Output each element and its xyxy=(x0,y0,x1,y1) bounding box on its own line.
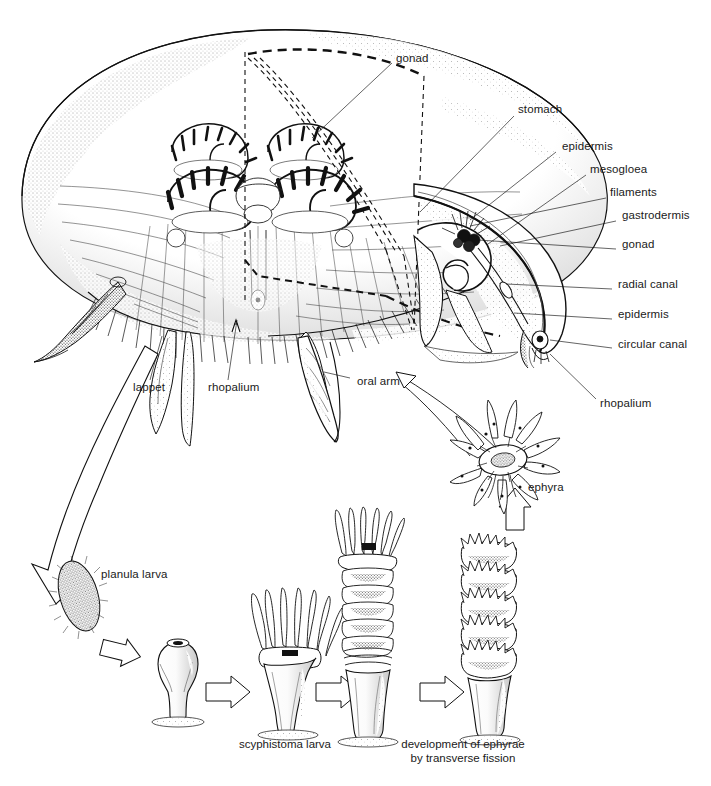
stage-young-polyp xyxy=(152,639,204,727)
label-epidermis-lower: epidermis xyxy=(618,308,669,320)
label-gonad-side: gonad xyxy=(622,238,654,250)
label-radial-canal: radial canal xyxy=(618,278,678,290)
stage-ephyra xyxy=(450,400,560,514)
strobila-segments xyxy=(342,568,393,657)
caption-scyphistoma-larva: scyphistoma larva xyxy=(220,737,350,751)
block-arrow-icon xyxy=(98,634,144,671)
stage-strobila-late xyxy=(460,533,520,745)
label-epidermis-top: epidermis xyxy=(562,140,613,152)
block-arrow-icon xyxy=(206,676,250,708)
label-planula-larva: planula larva xyxy=(101,568,168,580)
label-circular-canal: circular canal xyxy=(618,338,687,350)
figure-canvas: gonad stomach epidermis mesogloea filame… xyxy=(0,0,711,786)
curved-leader-arrow-icon xyxy=(396,372,500,456)
label-mesogloea: mesogloea xyxy=(590,163,647,175)
stage-scyphistoma xyxy=(251,588,342,740)
label-ephyra: ephyra xyxy=(528,481,564,493)
label-rhopalium-section: rhopalium xyxy=(600,397,651,409)
label-filaments: filaments xyxy=(610,186,657,198)
scyphistoma-tentacles xyxy=(251,588,342,656)
label-lappet: lappet xyxy=(133,381,165,393)
caption-ephyrae-development: development of ephyrae by transverse fis… xyxy=(378,737,548,765)
stage-strobila-early xyxy=(335,507,404,747)
diagram-artwork xyxy=(0,0,711,786)
label-gastrodermis: gastrodermis xyxy=(622,209,690,221)
label-stomach: stomach xyxy=(518,103,562,115)
strobila-ephyra-discs xyxy=(461,533,517,678)
block-arrow-icon xyxy=(420,676,464,708)
label-oral-arm: oral arm xyxy=(357,375,400,387)
label-gonad-top: gonad xyxy=(396,52,428,64)
label-rhopalium-bell: rhopalium xyxy=(208,381,259,393)
